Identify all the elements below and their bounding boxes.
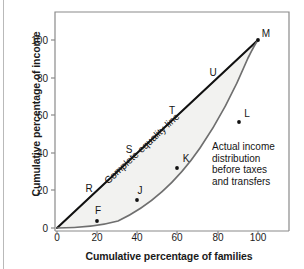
point-label-R: R: [85, 183, 92, 194]
lorenz-curve-figure: Cumulative percentage of income Cumulati…: [0, 0, 304, 269]
marker-M: [256, 38, 260, 42]
x-axis-ticks: [57, 231, 258, 235]
point-label-J: J: [138, 185, 143, 196]
marker-L: [237, 120, 241, 124]
marker-J: [135, 198, 139, 202]
actual-distribution-annotation: Actual income distribution before taxes …: [212, 141, 275, 187]
marker-F: [95, 219, 99, 223]
point-label-S: S: [126, 144, 133, 155]
marker-K: [175, 166, 179, 170]
point-label-F: F: [95, 205, 101, 216]
point-label-U: U: [209, 67, 216, 78]
point-label-T: T: [169, 105, 175, 116]
point-label-L: L: [244, 108, 250, 119]
point-label-K: K: [183, 153, 190, 164]
point-label-M: M: [262, 28, 270, 39]
